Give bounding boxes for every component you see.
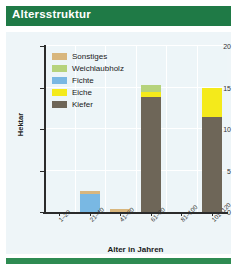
y-axis-tick-label: 15 — [201, 84, 231, 91]
y-axis-tick-label: 10 — [201, 126, 231, 133]
bar-segment[interactable] — [141, 97, 161, 212]
y-axis-tick — [40, 46, 44, 47]
chart-legend: SonstigesWeichlaubholzFichteEicheKiefer — [52, 50, 124, 110]
legend-swatch-icon — [52, 65, 67, 72]
vertical-gridline — [197, 46, 198, 212]
y-axis-tick — [40, 129, 44, 130]
legend-swatch-icon — [52, 77, 67, 84]
legend-swatch-icon — [52, 89, 67, 96]
legend-item-label: Sonstiges — [72, 52, 107, 61]
y-axis-tick — [40, 88, 44, 89]
legend-item-label: Eiche — [72, 88, 92, 97]
y-axis-title: Hektar — [16, 95, 25, 155]
card-footer-bar — [6, 258, 231, 264]
legend-swatch-icon — [52, 101, 67, 108]
bar-stack[interactable] — [171, 46, 191, 212]
y-axis-tick — [40, 171, 44, 172]
legend-item-label: Kiefer — [72, 100, 93, 109]
y-axis-tick-label: 20 — [201, 43, 231, 50]
bar-segment[interactable] — [141, 85, 161, 92]
bar-segment[interactable] — [141, 92, 161, 97]
vertical-gridline — [136, 46, 137, 212]
legend-item-label: Fichte — [72, 76, 94, 85]
legend-item[interactable]: Eiche — [52, 86, 124, 98]
y-axis-tick-label: 5 — [201, 167, 231, 174]
y-axis-line — [44, 45, 46, 213]
legend-item[interactable]: Fichte — [52, 74, 124, 86]
legend-item-label: Weichlaubholz — [72, 64, 124, 73]
legend-item[interactable]: Kiefer — [52, 98, 124, 110]
page-title: Altersstruktur — [12, 8, 91, 20]
bar-segment[interactable] — [202, 88, 222, 118]
chart-area: 05101520 Hektar 1–2021–4041–6061–8081–10… — [6, 32, 231, 254]
y-axis-tick — [40, 212, 44, 213]
legend-item[interactable]: Weichlaubholz — [52, 62, 124, 74]
vertical-gridline — [166, 46, 167, 212]
bar-stack[interactable] — [141, 46, 161, 212]
bar-segment[interactable] — [80, 191, 100, 194]
x-axis-title: Alter in Jahren — [44, 245, 227, 254]
altersstruktur-chart-card: Altersstruktur 05101520 Hektar 1–2021–40… — [0, 0, 237, 278]
legend-item[interactable]: Sonstiges — [52, 50, 124, 62]
legend-swatch-icon — [52, 53, 67, 60]
